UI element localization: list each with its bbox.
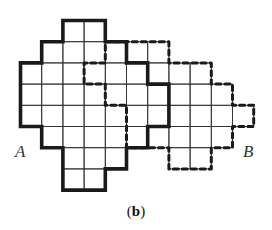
grid-cell bbox=[63, 21, 84, 42]
grid-cell bbox=[63, 148, 84, 169]
grid-cell bbox=[211, 105, 232, 126]
grid-cell bbox=[105, 127, 126, 148]
grid-cell bbox=[105, 63, 126, 84]
grid-cells bbox=[21, 21, 254, 191]
grid-cell bbox=[63, 169, 84, 190]
grid-cell bbox=[84, 148, 105, 169]
grid-cell bbox=[190, 63, 211, 84]
grid-cell bbox=[84, 127, 105, 148]
grid-cell bbox=[42, 127, 63, 148]
grid-cell bbox=[84, 21, 105, 42]
grid-cell bbox=[233, 105, 254, 126]
polyomino-diagram bbox=[0, 0, 272, 230]
grid-cell bbox=[169, 63, 190, 84]
caption-close: ) bbox=[140, 203, 145, 219]
grid-cell bbox=[190, 105, 211, 126]
grid-cell bbox=[148, 63, 169, 84]
label-a: A bbox=[15, 142, 25, 162]
grid-cell bbox=[127, 84, 148, 105]
grid-cell bbox=[190, 127, 211, 148]
grid-cell bbox=[148, 127, 169, 148]
grid-cell bbox=[148, 84, 169, 105]
grid-cell bbox=[127, 42, 148, 63]
grid-cell bbox=[190, 84, 211, 105]
grid-cell bbox=[105, 105, 126, 126]
grid-cell bbox=[42, 63, 63, 84]
grid-cell bbox=[21, 84, 42, 105]
grid-cell bbox=[84, 169, 105, 190]
grid-cell bbox=[21, 105, 42, 126]
grid-cell bbox=[127, 105, 148, 126]
grid-cell bbox=[84, 105, 105, 126]
grid-cell bbox=[63, 127, 84, 148]
grid-cell bbox=[84, 84, 105, 105]
grid-cell bbox=[169, 148, 190, 169]
grid-cell bbox=[21, 63, 42, 84]
grid-cell bbox=[63, 84, 84, 105]
grid-cell bbox=[148, 105, 169, 126]
grid-cell bbox=[127, 63, 148, 84]
grid-cell bbox=[42, 84, 63, 105]
grid-cell bbox=[211, 84, 232, 105]
grid-cell bbox=[63, 42, 84, 63]
grid-cell bbox=[105, 148, 126, 169]
grid-cell bbox=[105, 42, 126, 63]
grid-cell bbox=[105, 84, 126, 105]
grid-cell bbox=[63, 63, 84, 84]
figure-caption: (b) bbox=[0, 203, 272, 220]
grid-cell bbox=[169, 84, 190, 105]
grid-cell bbox=[84, 42, 105, 63]
grid-cell bbox=[127, 127, 148, 148]
grid-cell bbox=[148, 42, 169, 63]
grid-cell bbox=[169, 127, 190, 148]
caption-letter: b bbox=[132, 203, 140, 219]
grid-cell bbox=[63, 105, 84, 126]
label-b: B bbox=[243, 142, 253, 162]
grid-cell bbox=[190, 148, 211, 169]
grid-cell bbox=[211, 127, 232, 148]
grid-cell bbox=[169, 105, 190, 126]
grid-cell bbox=[42, 42, 63, 63]
grid-cell bbox=[84, 63, 105, 84]
grid-cell bbox=[42, 105, 63, 126]
